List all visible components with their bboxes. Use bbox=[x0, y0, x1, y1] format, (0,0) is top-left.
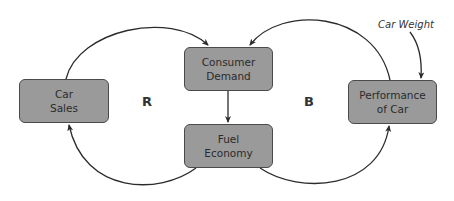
node-performance-line1: Performance bbox=[359, 88, 426, 102]
causal-loop-diagram: Car Sales Consumer Demand Fuel Economy P… bbox=[0, 0, 454, 201]
node-consumer-demand-line1: Consumer bbox=[202, 55, 256, 69]
node-consumer-demand-line2: Demand bbox=[202, 69, 256, 83]
arrow-fuel-economy-to-performance bbox=[260, 126, 389, 183]
node-fuel-economy-line1: Fuel bbox=[204, 132, 252, 146]
node-performance-line2: of Car bbox=[359, 102, 426, 116]
node-consumer-demand: Consumer Demand bbox=[184, 47, 273, 91]
loop-label-balancing: B bbox=[304, 94, 314, 109]
arrow-car-weight-to-performance bbox=[410, 32, 421, 78]
node-performance-of-car: Performance of Car bbox=[348, 80, 437, 124]
node-fuel-economy: Fuel Economy bbox=[184, 124, 273, 168]
external-variable-car-weight: Car Weight bbox=[378, 19, 434, 30]
loop-label-reinforcing: R bbox=[142, 94, 152, 109]
node-car-sales: Car Sales bbox=[19, 79, 109, 123]
node-car-sales-line1: Car bbox=[50, 87, 78, 101]
node-fuel-economy-line2: Economy bbox=[204, 146, 252, 160]
arrow-fuel-economy-to-car-sales bbox=[69, 125, 196, 185]
node-car-sales-line2: Sales bbox=[50, 101, 78, 115]
